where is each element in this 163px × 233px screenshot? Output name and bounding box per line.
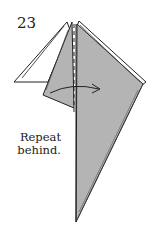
right-gray-panel bbox=[76, 24, 143, 222]
instruction-text: Repeat behind. bbox=[9, 131, 61, 157]
origami-step-diagram bbox=[0, 0, 163, 233]
instruction-line-2: behind. bbox=[9, 144, 61, 157]
step-number: 23 bbox=[17, 14, 36, 32]
